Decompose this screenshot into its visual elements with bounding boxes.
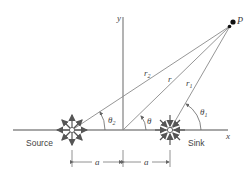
theta-arc <box>141 116 146 130</box>
theta2-arc <box>100 112 105 130</box>
theta1-arc <box>186 104 201 130</box>
dimension-lines <box>72 150 170 167</box>
dim-right-label: a <box>144 157 149 167</box>
r2-label: r2 <box>144 68 151 79</box>
point-p: P <box>228 15 243 28</box>
theta-label: θ <box>147 116 152 126</box>
sink-icon <box>155 115 185 145</box>
theta1-label: θ1 <box>200 107 207 118</box>
theta2-label: θ2 <box>108 115 115 126</box>
source-label: Source <box>26 138 53 148</box>
r-label: r <box>168 74 172 84</box>
point-p-label: P <box>236 15 243 26</box>
dim-left-label: a <box>95 157 100 167</box>
x-axis-label: x <box>225 131 230 141</box>
source-icon <box>57 115 87 145</box>
y-axis-label: y <box>116 13 121 23</box>
r1-label: r1 <box>186 78 193 89</box>
source-sink-diagram: x y P r2 r r1 θ2 θ θ1 Source <box>0 0 250 176</box>
sink-label: Sink <box>188 138 205 148</box>
r-line <box>123 26 230 130</box>
y-axis: y <box>116 13 123 130</box>
